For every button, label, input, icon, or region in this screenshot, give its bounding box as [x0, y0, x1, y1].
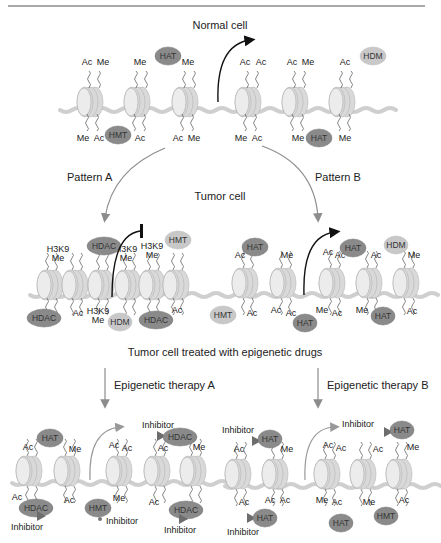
nucleosome — [124, 87, 150, 117]
inhibitor-label: Inhibitor — [11, 522, 43, 532]
enzyme-label: HDAC — [32, 313, 56, 323]
methyl-mark: Me — [316, 305, 329, 315]
histone-tail — [106, 253, 109, 270]
acetyl-mark: Ac — [247, 308, 258, 318]
enzyme-label: HDM — [110, 317, 129, 327]
methyl-mark: Me — [193, 442, 206, 452]
histone-tail — [80, 253, 83, 270]
histone-face — [314, 460, 328, 488]
histone-tail — [64, 439, 67, 456]
histone-face — [270, 269, 284, 297]
histone-face — [235, 88, 249, 116]
acetyl-mark: Ac — [172, 305, 183, 315]
acetyl-mark: Ac — [234, 444, 245, 454]
histone-tail — [181, 253, 184, 270]
histone-face — [225, 460, 239, 488]
enzyme-hat: HAT — [37, 429, 63, 447]
nucleosome — [139, 270, 165, 300]
enzyme-label: HMT — [109, 130, 127, 140]
histone-face — [356, 269, 370, 297]
methyl-mark: Me — [302, 57, 315, 67]
panel-pattern-a: H3K9MeH3K9MeH3K9MeHDACHMTHDACAcH3K9MeHDM… — [27, 224, 222, 331]
methyl-mark: Me — [188, 133, 201, 143]
h3k9-mark: Me — [120, 253, 133, 263]
enzyme-hdac: HDAC — [27, 309, 61, 327]
histone-tail — [396, 442, 399, 459]
histone-face — [282, 88, 296, 116]
histone-face — [386, 460, 400, 488]
enzyme-label: HMT — [377, 511, 395, 521]
enzyme-hdm: HDM — [360, 47, 386, 65]
acetyl-mark: Ac — [371, 250, 382, 260]
title-treated-cell: Tumor cell treated with epigenetic drugs — [128, 346, 323, 358]
acetyl-mark: Ac — [265, 495, 276, 505]
enzyme-label: HAT — [160, 51, 176, 61]
label-therapy-b: Epigenetic therapy B — [327, 379, 429, 391]
histone-face — [144, 457, 158, 485]
enzyme-hat: HAT — [242, 238, 268, 256]
histone-tail — [190, 486, 193, 503]
enzyme-label: HDM — [363, 51, 382, 61]
histone-tail — [293, 71, 296, 88]
enzyme-label: HAT — [257, 513, 273, 523]
acetyl-mark: Ac — [323, 247, 334, 257]
histone-face — [16, 457, 30, 485]
enzyme-hat: HAT — [293, 314, 317, 332]
h3k9-mark: Me — [146, 250, 159, 260]
nucleosome — [88, 270, 114, 300]
enzyme-hat: HAT — [306, 129, 332, 147]
nucleosome — [163, 270, 189, 300]
histone-face — [262, 460, 276, 488]
enzyme-label: HDAC — [168, 432, 192, 442]
h3k9-mark: Me — [92, 315, 105, 325]
histone-tail — [303, 71, 306, 88]
enzyme-hdac: HDAC — [139, 311, 173, 329]
histone-tail — [71, 253, 74, 270]
histone-face — [172, 88, 186, 116]
methyl-mark: Me — [235, 133, 248, 143]
histone-tail — [235, 489, 238, 506]
nucleosome — [77, 87, 103, 117]
panel-therapy-b: InhibitorHATAcMeAcAcAcMeInhibitorHATAcAc… — [222, 419, 441, 537]
inhibitor-label: Inhibitor — [222, 425, 254, 435]
acetyl-mark: Ac — [336, 443, 347, 453]
histone-tail — [172, 253, 175, 270]
enzyme-hat: HAT — [155, 47, 181, 65]
histone-tail — [366, 251, 369, 268]
enzyme-label: HAT — [247, 242, 263, 252]
acetyl-mark: Ac — [64, 495, 75, 505]
methyl-mark: Me — [316, 495, 329, 505]
histone-face — [232, 269, 246, 297]
nucleosome — [262, 459, 288, 489]
acetyl-mark: Ac — [287, 57, 298, 67]
enzyme-hmt: HMT — [165, 231, 191, 249]
methyl-mark: Me — [97, 57, 110, 67]
enzyme-hdac: HDAC — [19, 499, 53, 517]
panel-therapy-a: AcMeAcAcAcMeHATHDACInhibitorAcAcMeAcHDAC… — [11, 420, 228, 535]
acetyl-mark: Ac — [407, 306, 418, 316]
histone-face — [54, 457, 68, 485]
enzyme-label: HDAC — [24, 503, 48, 513]
acetyl-mark: Ac — [399, 495, 410, 505]
histone-tail — [369, 442, 372, 459]
panel-normal-cell: AcMeMeAcMeAcMeAcMeAcAcMeAcAcMeMeAcMeHATH… — [60, 40, 396, 147]
enzyme-hat: HAT — [371, 307, 395, 325]
enzyme-hat: HAT — [258, 430, 282, 448]
histone-tail — [183, 71, 186, 88]
enzyme-hdac: HDAC — [169, 501, 203, 519]
acetyl-mark: Ac — [373, 444, 384, 454]
methyl-mark: Me — [182, 57, 195, 67]
title-normal-cell: Normal cell — [192, 19, 247, 31]
histone-face — [37, 271, 51, 299]
histone-tail — [97, 253, 100, 270]
histone-face — [163, 271, 177, 299]
nucleosome — [393, 268, 419, 298]
acetyl-mark: Ac — [12, 492, 23, 502]
acetyl-mark: Ac — [23, 442, 34, 452]
enzyme-label: HAT — [311, 133, 327, 143]
acetyl-mark: Ac — [94, 133, 105, 143]
enzyme-hat: HAT — [329, 514, 353, 532]
histone-tail — [88, 71, 91, 88]
histone-tail — [199, 486, 202, 503]
acetyl-mark: Ac — [82, 57, 93, 67]
